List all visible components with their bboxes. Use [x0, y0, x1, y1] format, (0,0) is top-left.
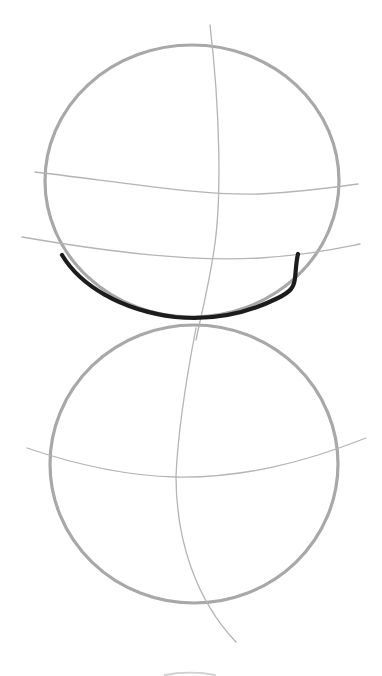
- bottom-vertical-guide: [176, 328, 236, 642]
- top-horizontal-guide-lower: [22, 237, 360, 259]
- bottom-horizontal-guide: [27, 438, 366, 477]
- top-circle-group: [22, 25, 360, 340]
- top-vertical-guide: [196, 25, 219, 340]
- sketch-drawing: [0, 0, 382, 676]
- bottom-circle-group: [27, 325, 366, 642]
- top-horizontal-guide-upper: [35, 172, 358, 194]
- bottom-circle: [50, 325, 338, 603]
- footer-pencil-marks: [165, 673, 215, 675]
- sketch-canvas: Pencil construction sketch of two stacke…: [0, 0, 382, 676]
